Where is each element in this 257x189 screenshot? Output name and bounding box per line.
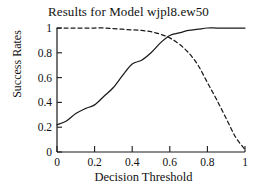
y-tick-label: 0.8: [12, 46, 52, 59]
axes: [57, 28, 245, 152]
x-tick-label: 0: [54, 156, 60, 169]
series-dashed-falling-curve: [57, 28, 245, 150]
y-axis-ticks: [57, 28, 62, 152]
series-solid-rising-curve: [57, 28, 245, 125]
x-tick-label: 1: [242, 156, 248, 169]
y-tick-label: 0.4: [12, 96, 52, 109]
x-tick-label: 0.4: [125, 156, 139, 169]
y-tick-label: 1: [12, 22, 52, 35]
x-tick-label: 0.6: [163, 156, 177, 169]
x-tick-label: 0.2: [87, 156, 101, 169]
y-tick-label: 0: [12, 146, 52, 159]
chart-figure: Results for Model wjpl8.ew50 Success Rat…: [0, 0, 257, 189]
x-tick-label: 0.8: [200, 156, 214, 169]
x-axis-ticks: [57, 146, 245, 152]
y-tick-label: 0.6: [12, 71, 52, 84]
y-tick-label: 0.2: [12, 121, 52, 134]
